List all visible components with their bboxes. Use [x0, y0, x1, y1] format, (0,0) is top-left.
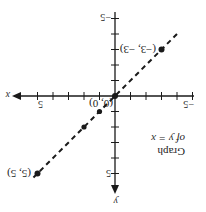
graph-figure: (5, 5) (−3, −3) (0, 0) −5 5 5 −5 x y Gra…	[0, 0, 206, 212]
y-tick-label-neg5: −5	[100, 12, 111, 23]
point-neg3-neg3	[159, 47, 165, 53]
y-tick-label-5: 5	[106, 168, 111, 179]
point-5-5	[35, 171, 41, 177]
x-tick-label-neg5: −5	[183, 99, 194, 110]
graph-title-line1: Graph	[157, 146, 185, 158]
label-5-5: (5, 5)	[7, 167, 31, 180]
label-origin: (0, 0)	[89, 97, 113, 110]
y-axis-label: y	[113, 196, 119, 207]
point-2-2	[81, 124, 86, 129]
coordinate-plane: (5, 5) (−3, −3) (0, 0) −5 5 5 −5 x y Gra…	[0, 0, 206, 212]
label-neg3-neg3: (−3, −3)	[119, 43, 156, 56]
graph-title-line2: of y = x	[151, 133, 185, 145]
x-axis-label: x	[5, 90, 11, 101]
x-axis-arrow-icon	[12, 92, 21, 100]
x-tick-label-5: 5	[38, 99, 43, 110]
y-axis-arrow-icon	[111, 185, 119, 194]
